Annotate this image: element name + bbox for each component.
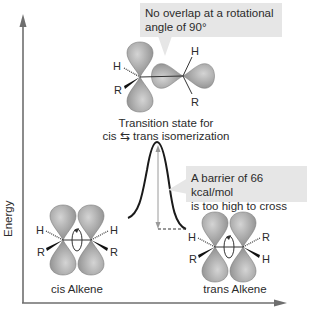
rotation-callout-line1: No overlap at a rotational (145, 6, 277, 20)
transition-state-molecule: H R H R (113, 42, 215, 112)
ts-left-top-atom: H (113, 60, 121, 72)
trans-alkene-label: trans Alkene (203, 283, 266, 295)
cis-right-top-atom: H (110, 224, 118, 236)
barrier-callout: A barrier of 66 kcal/mol is too high to … (186, 166, 307, 202)
energy-diagram: Energy H R H R Transition state for cis … (0, 0, 313, 312)
barrier-callout-line1: A barrier of 66 kcal/mol (191, 171, 302, 199)
cis-right-bottom-atom: R (110, 246, 118, 258)
barrier-arrow (156, 145, 161, 229)
y-axis (20, 14, 27, 303)
ts-left-bottom-atom: R (114, 84, 122, 96)
ts-caption-line2: cis ⇆ trans isomerization (103, 130, 230, 142)
x-axis (22, 300, 287, 307)
y-axis-label: Energy (2, 200, 14, 237)
trans-right-bottom-atom: H (262, 253, 270, 265)
barrier-callout-line2: is too high to cross (191, 199, 302, 213)
cis-alkene-molecule: H R H R (36, 205, 118, 275)
rotation-callout-line2: angle of 90° (145, 20, 277, 34)
cis-left-top-atom: H (36, 224, 44, 236)
ts-right-bottom-atom: R (191, 96, 199, 108)
trans-left-top-atom: H (188, 231, 196, 243)
cis-left-bottom-atom: R (37, 246, 45, 258)
trans-left-bottom-atom: R (189, 253, 197, 265)
trans-right-top-atom: R (262, 231, 270, 243)
ts-caption-line1: Transition state for (119, 117, 214, 129)
trans-alkene-molecule: H R R H (188, 212, 270, 282)
cis-alkene-label: cis Alkene (51, 283, 103, 295)
ts-right-top-atom: H (191, 45, 199, 57)
rotation-callout: No overlap at a rotational angle of 90° (140, 3, 282, 37)
callout-pointer-top (158, 36, 172, 56)
